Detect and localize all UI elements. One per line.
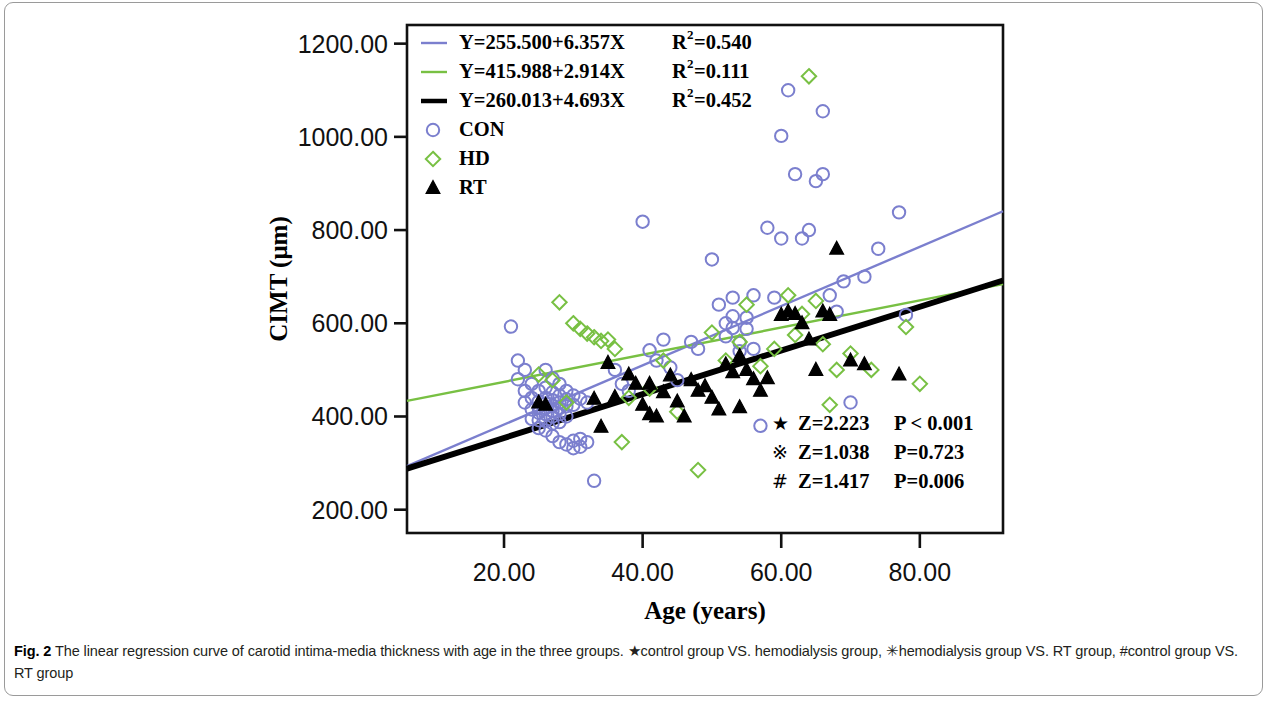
data-point-rt	[712, 402, 726, 415]
data-point-rt	[760, 371, 774, 384]
data-point-con	[768, 291, 780, 303]
y-axis-tick-label: 1000.00	[298, 123, 388, 151]
x-axis-title: Age (years)	[644, 597, 765, 625]
data-point-con	[817, 168, 829, 180]
data-point-hd	[829, 363, 843, 377]
annotation-symbol-3: #	[772, 470, 788, 492]
data-point-con	[519, 364, 531, 376]
data-point-con	[824, 289, 836, 301]
data-point-con	[817, 105, 829, 117]
legend-r2-sup-rt: 2	[687, 85, 694, 100]
data-point-rt	[830, 241, 844, 254]
y-axis-title: CIMT (μm)	[265, 216, 293, 342]
data-point-con	[761, 222, 773, 234]
data-point-hd	[739, 297, 753, 311]
data-point-con	[636, 215, 648, 227]
data-point-hd	[802, 69, 816, 83]
data-point-rt	[754, 383, 768, 396]
data-point-rt	[643, 376, 657, 389]
caption-text: The linear regression curve of carotid i…	[14, 643, 1238, 681]
data-point-rt	[733, 400, 747, 413]
legend-r2-value-hd: =0.111	[694, 60, 750, 82]
data-point-con	[657, 333, 669, 345]
figure-caption: Fig. 2 The linear regression curve of ca…	[14, 640, 1254, 684]
data-point-con	[872, 243, 884, 255]
data-point-hd	[691, 463, 705, 477]
data-point-rt	[857, 357, 871, 370]
figure-root: 200.00400.00600.00800.001000.001200.0020…	[0, 0, 1269, 701]
annotation-symbol-2: ※	[772, 441, 788, 463]
legend-r2-value-rt: =0.452	[694, 89, 752, 111]
legend-equation-rt: Y=260.013+4.693X	[459, 89, 625, 111]
data-point-con	[810, 175, 822, 187]
legend-equation-hd: Y=415.988+2.914X	[459, 60, 625, 82]
data-point-con	[796, 232, 808, 244]
data-point-rt	[594, 419, 608, 432]
data-point-con	[844, 396, 856, 408]
legend-marker-hd	[426, 152, 440, 166]
legend-r2-rt: R	[672, 89, 687, 111]
x-axis-tick-label: 80.00	[889, 558, 952, 586]
legend-equation-con: Y=255.500+6.357X	[459, 31, 625, 53]
annotation-p-1: P < 0.001	[894, 412, 973, 434]
data-point-rt	[698, 379, 712, 392]
data-point-con	[775, 130, 787, 142]
data-point-hd	[809, 294, 823, 308]
data-point-hd	[552, 295, 566, 309]
data-point-rt	[677, 409, 691, 422]
data-point-hd	[823, 398, 837, 412]
data-point-con	[720, 330, 732, 342]
data-point-hd	[615, 435, 629, 449]
data-point-con	[858, 270, 870, 282]
legend-label-hd: HD	[459, 147, 490, 169]
legend-label-rt: RT	[459, 176, 487, 198]
annotation-z-2: Z=1.038	[798, 441, 869, 463]
data-point-rt	[705, 390, 719, 403]
data-point-con	[505, 320, 517, 332]
data-point-con	[727, 310, 739, 322]
annotation-p-3: P=0.006	[894, 470, 964, 492]
y-axis-tick-label: 1200.00	[298, 30, 388, 58]
legend-marker-con	[427, 124, 439, 136]
legend-r2-con: R	[672, 31, 687, 53]
data-point-con	[519, 385, 531, 397]
annotation-p-2: P=0.723	[894, 441, 964, 463]
data-point-rt	[809, 362, 823, 375]
y-axis-tick-label: 400.00	[312, 402, 388, 430]
data-point-con	[588, 475, 600, 487]
chart-area: 200.00400.00600.00800.001000.001200.0020…	[0, 0, 1269, 632]
annotation-z-3: Z=1.417	[798, 470, 869, 492]
data-point-rt	[670, 394, 684, 407]
data-point-con	[727, 291, 739, 303]
y-axis-tick-label: 800.00	[312, 216, 388, 244]
y-axis-tick-label: 200.00	[312, 496, 388, 524]
legend-r2-sup-hd: 2	[687, 56, 694, 71]
data-point-con	[782, 84, 794, 96]
legend-r2-sup-con: 2	[687, 27, 694, 42]
y-axis-tick-label: 600.00	[312, 309, 388, 337]
data-point-rt	[608, 389, 622, 402]
data-point-con	[754, 420, 766, 432]
legend-r2-hd: R	[672, 60, 687, 82]
x-axis-tick-label: 60.00	[750, 558, 813, 586]
data-point-con	[775, 232, 787, 244]
legend-label-con: CON	[459, 118, 505, 140]
data-point-con	[706, 253, 718, 265]
data-point-con	[747, 343, 759, 355]
caption-label: Fig. 2	[14, 643, 51, 659]
data-point-rt	[636, 397, 650, 410]
legend-marker-rt	[426, 181, 440, 194]
x-axis-tick-label: 20.00	[473, 558, 536, 586]
data-point-hd	[788, 328, 802, 342]
data-point-con	[789, 168, 801, 180]
data-point-hd	[913, 377, 927, 391]
regression-scatter-plot: 200.00400.00600.00800.001000.001200.0020…	[0, 0, 1269, 632]
data-point-con	[713, 298, 725, 310]
data-point-con	[803, 224, 815, 236]
annotation-symbol-1: ★	[772, 412, 789, 434]
data-point-rt	[892, 367, 906, 380]
legend-r2-value-con: =0.540	[694, 31, 752, 53]
annotation-z-1: Z=2.223	[798, 412, 869, 434]
x-axis-tick-label: 40.00	[611, 558, 674, 586]
data-point-con	[893, 206, 905, 218]
